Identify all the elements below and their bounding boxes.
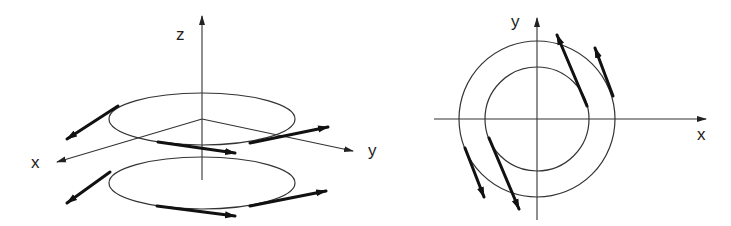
upper-loop-velocity-arrow-1 bbox=[158, 142, 235, 153]
y-axis-label: y bbox=[368, 141, 377, 160]
x-axis bbox=[57, 119, 202, 162]
x-axis-label: x bbox=[31, 153, 40, 172]
top-view-x-axis-label: x bbox=[697, 125, 706, 144]
right-panel-top-view: xy bbox=[434, 12, 706, 220]
rotating-loops-figure: zxy xy z x y x y bbox=[0, 0, 731, 226]
arrow-upper-right-short bbox=[595, 48, 613, 96]
arrow-lower-left-long bbox=[489, 138, 519, 209]
z-axis-label: z bbox=[176, 25, 185, 44]
upper-loop-velocity-arrow-2 bbox=[250, 127, 328, 143]
arrow-lower-left-short bbox=[465, 148, 484, 197]
top-view-y-axis-label: y bbox=[511, 12, 520, 31]
lower-loop-velocity-arrow-1 bbox=[157, 206, 235, 216]
arrow-upper-right-long bbox=[557, 35, 587, 106]
y-axis bbox=[202, 119, 353, 151]
left-panel-3d-view: zxy bbox=[31, 16, 377, 216]
lower-loop-velocity-arrow-0 bbox=[67, 172, 110, 203]
